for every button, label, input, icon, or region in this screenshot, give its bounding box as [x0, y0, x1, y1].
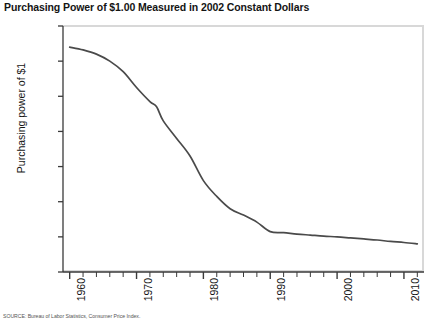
y-axis-ticks — [58, 26, 63, 272]
x-axis-minor-ticks — [83, 272, 417, 277]
axis-lines — [63, 26, 424, 272]
source-note: SOURCE: Bureau of Labor Statistics, Cons… — [3, 313, 140, 319]
x-tick-label: 1990 — [275, 278, 287, 301]
chart-figure: Purchasing Power of $1.00 Measured in 20… — [0, 0, 440, 320]
x-tick-label: 2010 — [409, 278, 421, 301]
plot-svg — [0, 0, 440, 320]
x-tick-label: 2000 — [342, 278, 354, 301]
x-tick-label: 1980 — [208, 278, 220, 301]
x-tick-label: 1960 — [75, 278, 87, 301]
data-series-line — [70, 47, 418, 244]
x-tick-label: 1970 — [142, 278, 154, 301]
